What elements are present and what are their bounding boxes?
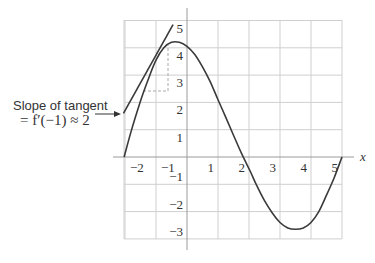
annotation-line2: = f′(−1) ≈ 2: [20, 112, 90, 129]
x-tick-label: 1: [208, 160, 215, 175]
x-tick-label: 3: [270, 160, 277, 175]
annotation-line1: Slope of tangent: [13, 98, 108, 113]
x-tick-label: 4: [301, 160, 308, 175]
tangent-line: [123, 25, 173, 114]
y-tick-label: −2: [169, 197, 183, 212]
y-tick-label: 5: [177, 21, 184, 36]
x-tick-label: −2: [130, 160, 144, 175]
x-tick-label: 5: [332, 160, 339, 175]
y-tick-label: −1: [169, 169, 183, 184]
x-tick-label: 2: [239, 160, 246, 175]
y-tick-label: 3: [177, 75, 184, 90]
y-tick-label: −3: [169, 224, 183, 239]
function-curve: [124, 42, 342, 230]
chart: x −2−112345 54321−1−2−3 Slope of tangent…: [0, 0, 375, 263]
arrow-head-icon: [114, 111, 121, 117]
x-tick-labels: −2−112345: [130, 160, 338, 175]
y-tick-label: 1: [177, 130, 184, 145]
x-axis-label: x: [359, 149, 366, 164]
y-tick-label: 2: [177, 102, 184, 117]
y-tick-label: 4: [177, 48, 184, 63]
